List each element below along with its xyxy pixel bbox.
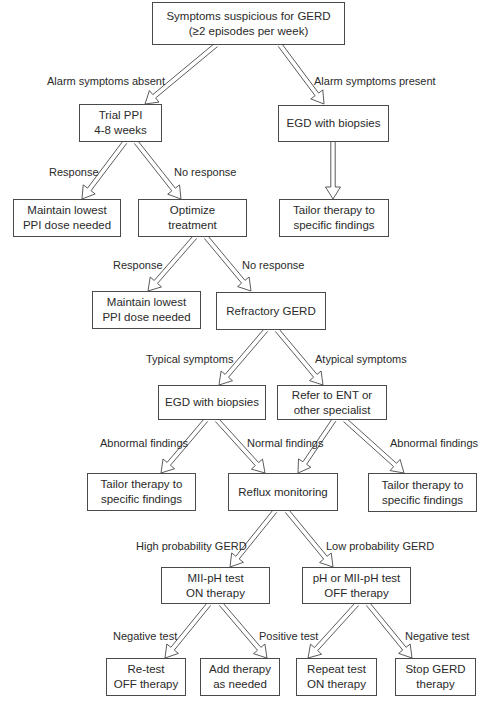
node-text-line: EGD with biopsies [287, 116, 381, 131]
node-text-line: as needed [213, 677, 267, 692]
edge-label: Low probability GERD [326, 540, 434, 553]
node-refer-ent: Refer to ENT orother specialist [277, 385, 387, 420]
node-text-line: Refractory GERD [226, 304, 315, 319]
node-text-line: Stop GERD [405, 662, 465, 677]
node-text-line: Reflux monitoring [238, 485, 327, 500]
node-refractory: Refractory GERD [216, 292, 326, 330]
edge-label: Response [113, 259, 163, 272]
arrow-start-to-egd1 [278, 44, 324, 104]
edge-label: Atypical symptoms [315, 353, 407, 366]
node-text-line: Add therapy [209, 662, 271, 677]
edge-label: Negative test [405, 630, 469, 643]
node-text-line: (≥2 episodes per week) [189, 24, 308, 39]
node-text-line: Tailor therapy to [382, 478, 464, 493]
node-add-therapy: Add therapyas needed [200, 658, 280, 696]
node-text-line: other specialist [294, 403, 371, 418]
node-maintain1: Maintain lowestPPI dose needed [13, 199, 121, 237]
node-text-line: Optimize [170, 203, 215, 218]
arrow-start-to-trial-ppi [145, 43, 217, 104]
node-text-line: ON therapy [307, 677, 366, 692]
edge-label: Abnormal findings [390, 437, 478, 450]
edge-label: No response [242, 259, 304, 272]
node-text-line: Maintain lowest [27, 203, 106, 218]
arrow-egd1-to-tailor1 [326, 142, 341, 199]
node-reflux: Reflux monitoring [228, 473, 338, 511]
edge-label: Alarm symptoms present [314, 75, 436, 88]
node-text-line: specific findings [382, 493, 463, 508]
node-text-line: PPI dose needed [102, 310, 190, 325]
node-start: Symptoms suspicious for GERD(≥2 episodes… [152, 2, 345, 45]
arrow-reflux-to-mii-on [230, 510, 277, 567]
edge-label: Abnormal findings [100, 437, 188, 450]
node-text-line: OFF therapy [324, 586, 389, 601]
node-text-line: treatment [168, 218, 217, 233]
node-text-line: Symptoms suspicious for GERD [166, 9, 330, 24]
node-text-line: EGD with biopsies [165, 395, 259, 410]
node-text-line: therapy [416, 677, 454, 692]
node-tailor3: Tailor therapy tospecific findings [368, 473, 477, 512]
edge-label: Typical symptoms [146, 353, 233, 366]
node-repeat-test: Repeat testON therapy [296, 658, 377, 696]
edge-label: Positive test [259, 630, 318, 643]
node-maintain2: Maintain lowestPPI dose needed [92, 291, 201, 329]
node-egd2: EGD with biopsies [158, 385, 266, 420]
edge-label: No response [174, 166, 236, 179]
node-text-line: Tailor therapy to [101, 477, 183, 492]
arrow-reflux-to-ph-off [285, 510, 333, 567]
node-text-line: Repeat test [307, 662, 366, 677]
edge-label: Response [49, 166, 99, 179]
edge-label: Negative test [113, 630, 177, 643]
node-trial-ppi: Trial PPI4-8 weeks [79, 104, 162, 142]
node-text-line: ON therapy [186, 586, 245, 601]
node-text-line: Refer to ENT or [292, 388, 372, 403]
node-text-line: specific findings [293, 218, 374, 233]
node-text-line: 4-8 weeks [94, 123, 146, 138]
node-tailor2: Tailor therapy tospecific findings [87, 473, 196, 511]
node-text-line: Maintain lowest [107, 295, 186, 310]
node-egd1: EGD with biopsies [278, 105, 389, 142]
node-retest: Re-testOFF therapy [106, 658, 186, 696]
node-optimize: Optimizetreatment [138, 199, 247, 237]
edge-label: High probability GERD [136, 540, 247, 553]
node-text-line: OFF therapy [114, 677, 179, 692]
edge-label: Normal findings [247, 437, 323, 450]
edge-label: Alarm symptoms absent [47, 75, 165, 88]
node-text-line: specific findings [101, 492, 182, 507]
node-text-line: pH or MII-pH test [313, 571, 401, 586]
node-ph-off: pH or MII-pH testOFF therapy [302, 567, 411, 604]
node-text-line: PPI dose needed [23, 218, 111, 233]
gerd-flowchart: Symptoms suspicious for GERD(≥2 episodes… [0, 0, 490, 701]
node-text-line: Re-test [127, 662, 164, 677]
node-stop-gerd: Stop GERDtherapy [395, 658, 476, 696]
node-text-line: Tailor therapy to [293, 203, 375, 218]
node-text-line: MII-pH test [187, 571, 243, 586]
node-mii-on: MII-pH testON therapy [161, 567, 270, 604]
node-text-line: Trial PPI [99, 108, 143, 123]
node-tailor1: Tailor therapy tospecific findings [279, 199, 389, 237]
